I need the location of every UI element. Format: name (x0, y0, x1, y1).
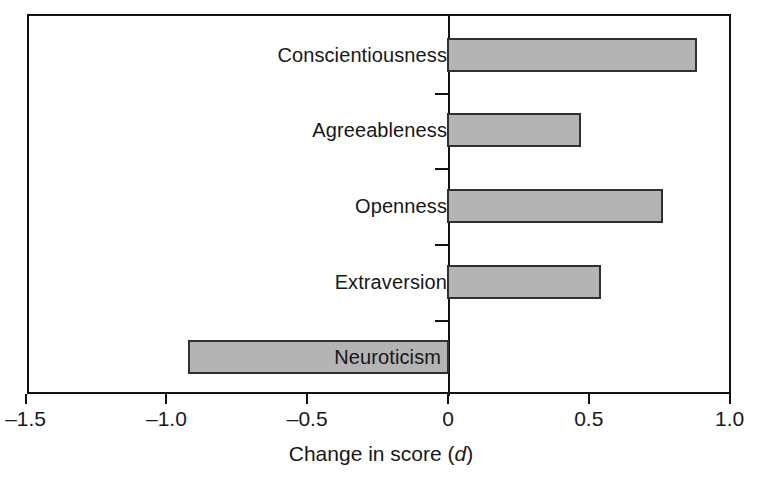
y-axis-minor-tick-3 (435, 244, 448, 246)
y-axis-minor-tick-1 (435, 93, 448, 95)
x-axis-title: Change in score (d) (0, 441, 762, 467)
x-axis-tick-0 (25, 394, 27, 404)
x-axis-tick-2 (306, 394, 308, 404)
category-label-neuroticism: Neuroticism (334, 340, 441, 374)
x-axis-tick-label-5: 1.0 (715, 406, 744, 432)
category-label-row: Agreeableness (0, 113, 447, 147)
x-axis-tick-label-3: 0 (442, 406, 454, 432)
bar-extraversion (447, 265, 601, 299)
x-axis-tick-label-2: –0.5 (287, 406, 328, 432)
category-label-openness: Openness (355, 189, 447, 223)
x-axis-tick-label-1: –1.0 (146, 406, 187, 432)
y-axis-minor-tick-2 (435, 168, 448, 170)
bar-chart-figure: ConscientiousnessAgreeablenessOpennessEx… (0, 0, 762, 480)
x-axis-tick-label-0: –1.5 (5, 406, 46, 432)
x-axis-tick-1 (165, 394, 167, 404)
x-axis-tick-label-4: 0.5 (574, 406, 603, 432)
x-axis-title-symbol: d (455, 442, 467, 465)
category-label-extraversion: Extraversion (335, 265, 447, 299)
bar-conscientiousness (447, 38, 697, 72)
category-label-conscientiousness: Conscientiousness (277, 38, 447, 72)
y-axis-minor-tick-4 (435, 320, 448, 322)
x-axis-title-close: ) (466, 442, 473, 465)
x-axis-tick-5 (729, 394, 731, 404)
category-label-agreeableness: Agreeableness (312, 113, 447, 147)
x-axis-tick-4 (588, 394, 590, 404)
category-label-row: Neuroticism (0, 340, 447, 374)
bar-openness (447, 189, 663, 223)
page-bleed-area (0, 466, 762, 480)
category-label-row: Extraversion (0, 265, 447, 299)
category-label-row: Openness (0, 189, 447, 223)
x-axis-title-text: Change in score ( (289, 442, 455, 465)
bar-agreeableness (447, 113, 581, 147)
category-label-row: Conscientiousness (0, 38, 447, 72)
x-axis-tick-3 (447, 394, 449, 404)
